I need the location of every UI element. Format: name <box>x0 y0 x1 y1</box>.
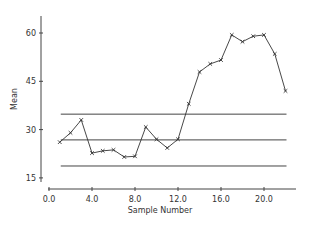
x-tick-label: 12.0 <box>169 195 187 204</box>
data-point-x-marker-icon <box>230 33 234 37</box>
x-tick-label: 16.0 <box>212 195 230 204</box>
x-tick-label: 0.0 <box>43 195 56 204</box>
data-point-x-marker-icon <box>241 40 245 44</box>
y-tick-label: 60 <box>26 29 36 38</box>
y-tick-label: 30 <box>26 126 36 135</box>
y-axis: 15304560 <box>26 16 43 183</box>
data-point-x-marker-icon <box>69 131 73 135</box>
control-chart: 15304560 0.04.08.012.016.020.0 Sample Nu… <box>0 0 312 228</box>
control-limit-lines <box>61 114 287 166</box>
x-tick-label: 8.0 <box>129 195 142 204</box>
x-tick-label: 20.0 <box>255 195 273 204</box>
data-point-x-marker-icon <box>58 140 62 144</box>
data-point-x-marker-icon <box>155 137 159 141</box>
x-axis-title: Sample Number <box>128 206 193 215</box>
x-axis: 0.04.08.012.016.020.0 <box>43 187 296 204</box>
y-tick-label: 45 <box>26 77 36 86</box>
data-point-x-marker-icon <box>165 146 169 150</box>
series-line <box>60 35 286 157</box>
y-axis-title: Mean <box>10 88 19 110</box>
x-tick-label: 4.0 <box>86 195 99 204</box>
y-tick-label: 15 <box>26 174 36 183</box>
